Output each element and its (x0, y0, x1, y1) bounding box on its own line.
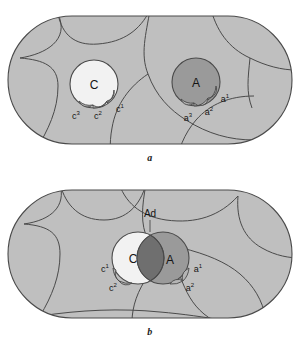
figure-root: C A c3 c2 c1 (0, 0, 300, 352)
panel-a-svg: C A c3 c2 c1 (0, 0, 300, 176)
panel-b-caption: b (0, 326, 300, 337)
circle-A-b-label: A (166, 253, 174, 267)
panel-b: C A Ad c1 (0, 176, 300, 352)
circle-C-b-label: C (129, 252, 138, 266)
circle-A-a-label: A (192, 76, 200, 90)
circle-C-a-label: C (90, 78, 99, 92)
circle-Ad-b-label: Ad (144, 208, 156, 219)
panel-a: C A c3 c2 c1 (0, 0, 300, 176)
circle-C-a: C (70, 60, 118, 108)
circle-A-a: A (172, 58, 220, 106)
panel-a-caption: a (0, 152, 300, 163)
